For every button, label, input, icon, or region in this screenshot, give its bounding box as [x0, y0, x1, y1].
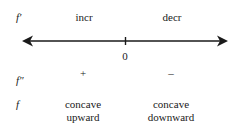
f-right-line2: downward — [148, 111, 194, 123]
f-left-line2: upward — [67, 111, 100, 123]
number-line — [0, 0, 244, 131]
sign-chart-diagram: f′ incr decr 0 + – f″ f concave upward c… — [0, 0, 244, 131]
f-double-prime-left-sign: + — [80, 67, 86, 79]
f-right-line1: concave — [153, 98, 189, 110]
f-double-prime-label: f″ — [16, 74, 24, 86]
f-label: f — [16, 98, 19, 110]
zero-tick-label: 0 — [122, 50, 128, 62]
f-double-prime-right-sign: – — [168, 67, 174, 79]
f-left-line1: concave — [65, 98, 101, 110]
